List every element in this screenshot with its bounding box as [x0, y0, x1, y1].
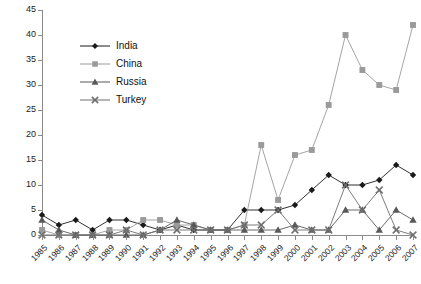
x-axis-tick: [396, 236, 397, 240]
y-axis-tick: [38, 110, 42, 111]
plot-area: [0, 0, 421, 284]
x-axis-tick: [59, 236, 60, 240]
y-axis-tick: [38, 85, 42, 86]
series-layer: [0, 0, 421, 284]
x-axis-tick: [126, 236, 127, 240]
data-point: [309, 147, 315, 153]
x-axis-tick: [228, 236, 229, 240]
data-point: [73, 217, 79, 223]
line-chart: 051015202530354045 198519861987198819891…: [0, 0, 421, 284]
x-axis-tick: [42, 236, 43, 240]
data-point: [157, 217, 163, 223]
y-axis-tick: [38, 185, 42, 186]
data-point: [393, 227, 400, 234]
x-axis-tick: [177, 236, 178, 240]
series-line: [42, 165, 413, 230]
legend-marker-turkey-icon: [78, 93, 112, 107]
legend-item: India: [78, 37, 198, 55]
data-point: [376, 82, 382, 88]
data-point: [410, 22, 416, 28]
legend-marker-india-icon: [78, 39, 112, 53]
series-india: [39, 162, 416, 233]
x-axis-tick: [278, 236, 279, 240]
y-axis-tick: [38, 60, 42, 61]
x-axis-tick: [160, 236, 161, 240]
x-axis-tick: [93, 236, 94, 240]
data-point: [393, 87, 399, 93]
data-point: [275, 197, 281, 203]
x-axis-tick: [109, 236, 110, 240]
data-point: [140, 217, 146, 223]
x-axis-tick: [413, 236, 414, 240]
data-point: [326, 102, 332, 108]
y-axis-tick: [38, 135, 42, 136]
x-axis-tick: [329, 236, 330, 240]
x-axis-tick: [379, 236, 380, 240]
x-axis-tick: [143, 236, 144, 240]
y-axis-tick: [38, 160, 42, 161]
legend-label: Russia: [112, 77, 147, 87]
x-axis-tick: [261, 236, 262, 240]
legend-label: India: [112, 41, 138, 51]
y-axis-tick: [38, 35, 42, 36]
x-axis-tick: [362, 236, 363, 240]
data-point: [376, 187, 383, 194]
data-point: [258, 207, 264, 213]
data-point: [258, 142, 264, 148]
x-axis-tick: [244, 236, 245, 240]
chart-legend: India China Russia Turkey: [78, 37, 198, 109]
data-point: [106, 217, 112, 223]
x-axis-tick: [194, 236, 195, 240]
data-point: [359, 67, 365, 73]
legend-item: Russia: [78, 73, 198, 91]
data-point: [38, 216, 45, 223]
legend-label: China: [112, 59, 142, 69]
x-axis-tick: [76, 236, 77, 240]
x-axis-tick: [295, 236, 296, 240]
y-axis-tick: [38, 210, 42, 211]
data-point: [343, 32, 349, 38]
data-point: [410, 172, 416, 178]
data-point: [409, 216, 416, 223]
data-point: [292, 152, 298, 158]
legend-marker-china-icon: [78, 57, 112, 71]
data-point: [123, 217, 129, 223]
x-axis-tick: [312, 236, 313, 240]
legend-item: China: [78, 55, 198, 73]
x-axis-tick: [211, 236, 212, 240]
data-point: [392, 206, 399, 213]
data-point: [359, 182, 365, 188]
x-axis-tick: [346, 236, 347, 240]
legend-marker-russia-icon: [78, 75, 112, 89]
y-axis-tick: [38, 10, 42, 11]
legend-label: Turkey: [112, 95, 146, 105]
legend-item: Turkey: [78, 91, 198, 109]
data-point: [173, 216, 180, 223]
